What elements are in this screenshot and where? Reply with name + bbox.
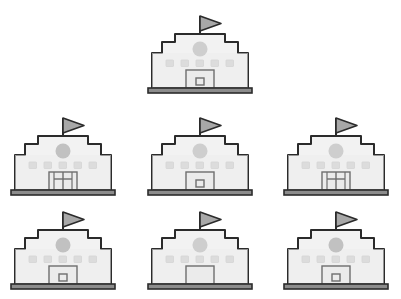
window-square [29, 162, 37, 169]
window-square [302, 256, 310, 263]
window-square [211, 256, 219, 263]
window-square [226, 256, 234, 263]
building-4 [281, 110, 391, 205]
window-square [74, 162, 82, 169]
flag-triangle [200, 212, 221, 227]
foundation-plinth [11, 190, 115, 195]
flag-triangle [63, 118, 84, 133]
window-square [89, 256, 97, 263]
window-square [317, 256, 325, 263]
building-2 [8, 110, 118, 205]
building-icon-grid [0, 0, 401, 299]
window-square [211, 162, 219, 169]
window-square [362, 162, 370, 169]
window-square [181, 256, 189, 263]
flag-triangle [336, 118, 357, 133]
window-square [196, 162, 204, 169]
clock-circle [193, 238, 208, 253]
door-window-square [196, 78, 204, 85]
window-square [181, 162, 189, 169]
clock-circle [329, 144, 344, 159]
window-square [332, 256, 340, 263]
window-square [226, 60, 234, 67]
window-square [196, 256, 204, 263]
door-window-square [332, 274, 340, 281]
window-square [317, 162, 325, 169]
window-square [181, 60, 189, 67]
entrance-door [186, 70, 214, 88]
flag-triangle [336, 212, 357, 227]
foundation-plinth [284, 284, 388, 289]
entrance-door [322, 172, 350, 190]
foundation-plinth [11, 284, 115, 289]
building-5 [8, 204, 118, 299]
window-square [44, 256, 52, 263]
entrance-door [49, 266, 77, 284]
building-3 [145, 110, 255, 205]
window-square [89, 162, 97, 169]
window-square [211, 60, 219, 67]
flag-triangle [63, 212, 84, 227]
flag-triangle [200, 16, 221, 31]
window-square [166, 162, 174, 169]
entrance-door [322, 266, 350, 284]
window-square [302, 162, 310, 169]
foundation-plinth [148, 284, 252, 289]
clock-circle [329, 238, 344, 253]
window-square [29, 256, 37, 263]
window-square [59, 256, 67, 263]
clock-circle [56, 144, 71, 159]
door-window-square [59, 274, 67, 281]
foundation-plinth [284, 190, 388, 195]
entrance-door [49, 172, 77, 190]
window-square [196, 60, 204, 67]
window-square [347, 256, 355, 263]
window-square [347, 162, 355, 169]
foundation-plinth [148, 88, 252, 93]
foundation-plinth [148, 190, 252, 195]
window-square [166, 256, 174, 263]
window-square [44, 162, 52, 169]
entrance-door [186, 266, 214, 284]
window-square [59, 162, 67, 169]
window-square [332, 162, 340, 169]
building-7 [281, 204, 391, 299]
door-window-square [196, 180, 204, 187]
window-square [362, 256, 370, 263]
entrance-door [186, 172, 214, 190]
window-square [74, 256, 82, 263]
building-1 [145, 8, 255, 103]
flag-triangle [200, 118, 221, 133]
clock-circle [56, 238, 71, 253]
clock-circle [193, 42, 208, 57]
window-square [226, 162, 234, 169]
window-square [166, 60, 174, 67]
building-6 [145, 204, 255, 299]
clock-circle [193, 144, 208, 159]
